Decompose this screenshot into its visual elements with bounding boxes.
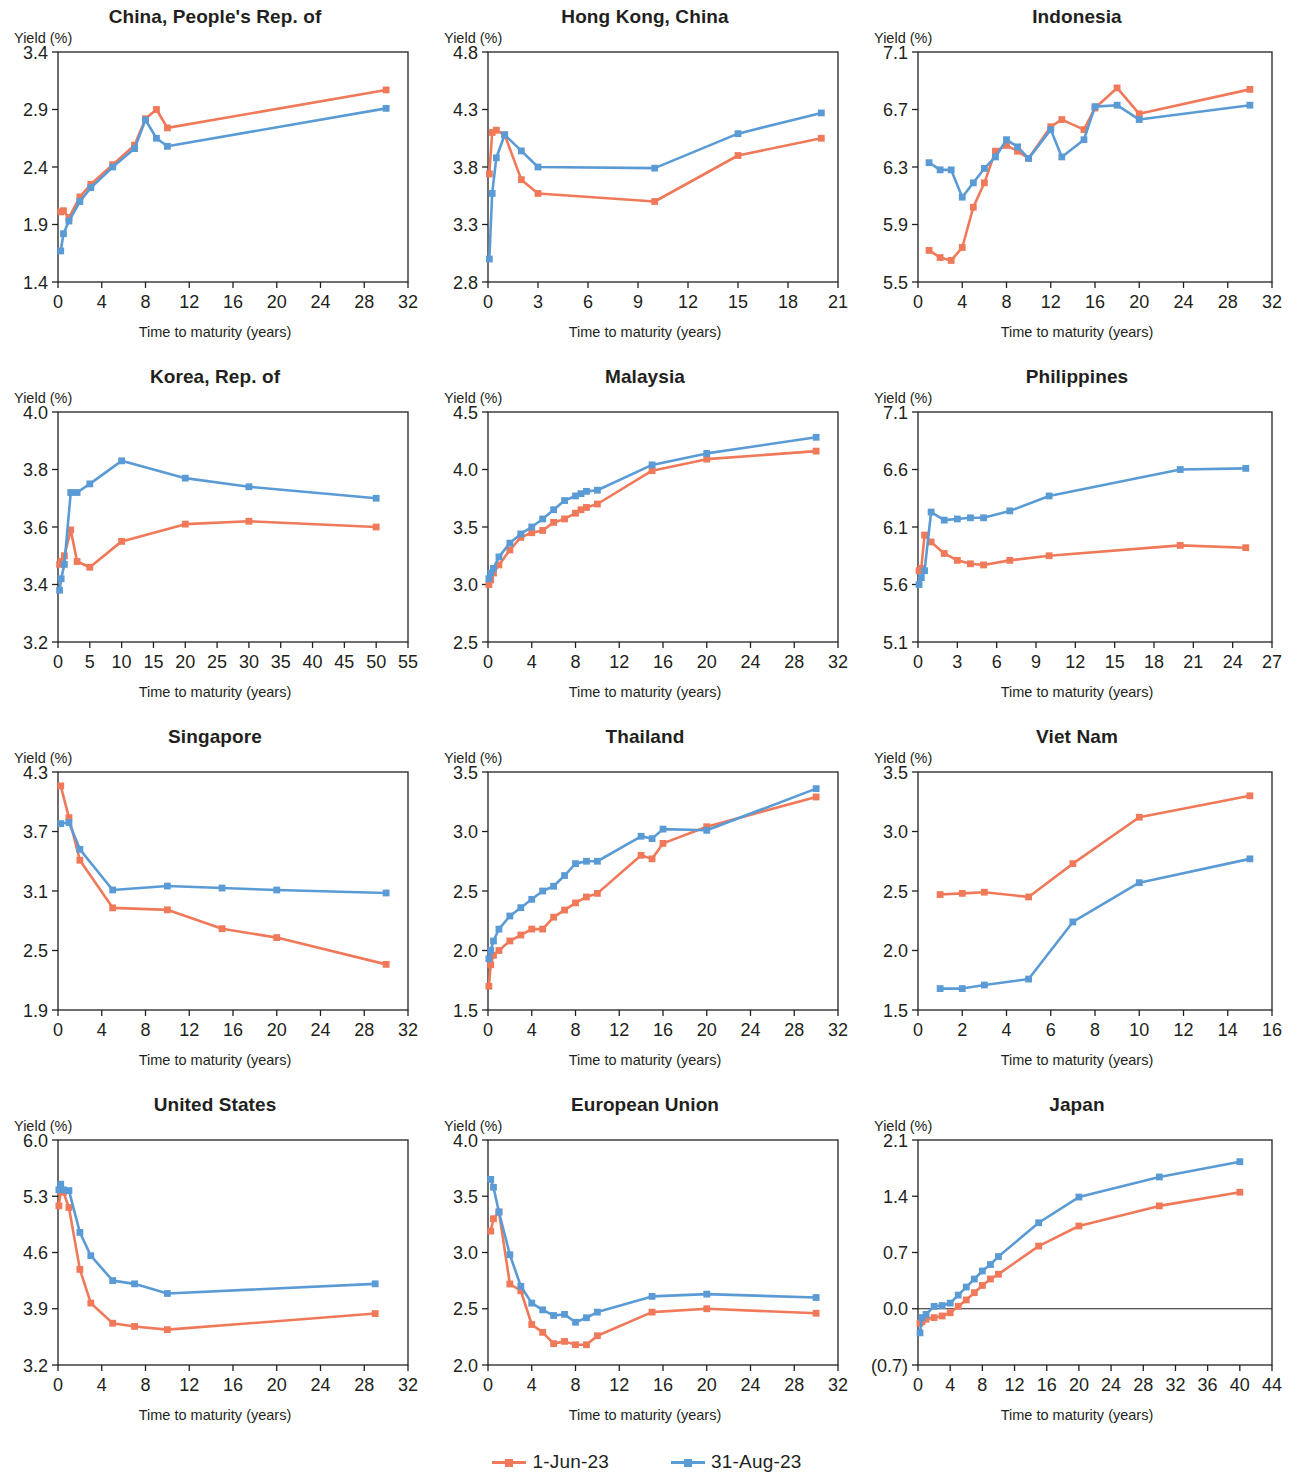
chart-grid: China, People's Rep. ofYield (%)1.41.92.… (0, 0, 1294, 1443)
svg-text:16: 16 (653, 652, 673, 672)
svg-text:2.0: 2.0 (453, 1356, 478, 1376)
svg-text:24: 24 (310, 1375, 330, 1395)
legend-1-jun-23: 1-Jun-23 (492, 1451, 609, 1473)
svg-text:32: 32 (828, 1375, 848, 1395)
svg-text:10: 10 (112, 652, 132, 672)
svg-text:27: 27 (1262, 652, 1282, 672)
svg-text:3.0: 3.0 (453, 822, 478, 842)
svg-text:36: 36 (1198, 1375, 1218, 1395)
chart-panel-philippines: PhilippinesYield (%)5.15.66.16.67.103691… (860, 360, 1294, 720)
svg-text:6.6: 6.6 (883, 460, 908, 480)
svg-text:8: 8 (977, 1375, 987, 1395)
svg-text:0: 0 (53, 1020, 63, 1040)
chart-panel-viet-nam: Viet NamYield (%)1.52.02.53.03.502468101… (860, 720, 1294, 1088)
svg-text:12: 12 (1005, 1375, 1025, 1395)
svg-text:3.4: 3.4 (23, 575, 48, 595)
legend-swatch-icon (492, 1456, 526, 1468)
svg-text:3.5: 3.5 (453, 1187, 478, 1207)
svg-text:12: 12 (609, 1375, 629, 1395)
svg-text:0: 0 (483, 292, 493, 312)
svg-text:4: 4 (527, 652, 537, 672)
svg-text:14: 14 (1218, 1020, 1238, 1040)
svg-text:6.3: 6.3 (883, 158, 908, 178)
svg-text:12: 12 (609, 652, 629, 672)
legend-label: 31-Aug-23 (711, 1451, 802, 1473)
svg-text:9: 9 (633, 292, 643, 312)
svg-text:4: 4 (1001, 1020, 1011, 1040)
svg-text:1.5: 1.5 (883, 1001, 908, 1021)
svg-text:28: 28 (1133, 1375, 1153, 1395)
legend-marker (684, 1459, 692, 1467)
svg-text:3.0: 3.0 (883, 822, 908, 842)
svg-text:3.2: 3.2 (23, 633, 48, 653)
svg-text:2.5: 2.5 (453, 633, 478, 653)
figure-legend: 1-Jun-2331-Aug-23 (0, 1443, 1294, 1481)
series-1-jun-23 (57, 87, 389, 221)
svg-text:2.0: 2.0 (883, 941, 908, 961)
svg-text:8: 8 (140, 292, 150, 312)
svg-text:16: 16 (223, 292, 243, 312)
svg-text:32: 32 (1262, 292, 1282, 312)
svg-text:4: 4 (97, 1020, 107, 1040)
series-31-aug-23 (937, 855, 1254, 992)
svg-text:4: 4 (97, 292, 107, 312)
series-31-aug-23 (57, 819, 389, 896)
svg-text:16: 16 (653, 1375, 673, 1395)
legend-31-aug-23: 31-Aug-23 (671, 1451, 802, 1473)
chart-panel-korea-rep-of: Korea, Rep. ofYield (%)3.23.43.63.84.005… (0, 360, 430, 720)
x-axis-label: Time to maturity (years) (430, 684, 860, 700)
svg-text:2.0: 2.0 (453, 941, 478, 961)
svg-text:4: 4 (97, 1375, 107, 1395)
svg-text:5.1: 5.1 (883, 633, 908, 653)
svg-text:28: 28 (354, 1020, 374, 1040)
svg-text:20: 20 (267, 1375, 287, 1395)
svg-text:40: 40 (1230, 1375, 1250, 1395)
svg-text:4: 4 (527, 1020, 537, 1040)
svg-text:8: 8 (140, 1020, 150, 1040)
svg-text:3.3: 3.3 (453, 215, 478, 235)
svg-text:28: 28 (784, 1020, 804, 1040)
svg-text:5.5: 5.5 (883, 273, 908, 293)
svg-text:6: 6 (1046, 1020, 1056, 1040)
svg-text:4.5: 4.5 (453, 403, 478, 423)
x-axis-label: Time to maturity (years) (430, 1407, 860, 1423)
series-1-jun-23 (937, 792, 1254, 900)
svg-text:4: 4 (945, 1375, 955, 1395)
series-31-aug-23 (485, 785, 819, 962)
svg-text:16: 16 (223, 1375, 243, 1395)
svg-text:8: 8 (1090, 1020, 1100, 1040)
svg-text:3.6: 3.6 (23, 518, 48, 538)
svg-text:8: 8 (1001, 292, 1011, 312)
svg-text:30: 30 (239, 652, 259, 672)
svg-text:4.0: 4.0 (453, 1131, 478, 1151)
svg-text:20: 20 (697, 1020, 717, 1040)
svg-text:0: 0 (483, 1020, 493, 1040)
plot-area: 1.52.02.53.03.50246810121416 (860, 720, 1294, 1088)
plot-area: 3.23.94.65.36.0048121620242832 (0, 1088, 430, 1443)
svg-text:25: 25 (207, 652, 227, 672)
svg-text:16: 16 (653, 1020, 673, 1040)
svg-text:45: 45 (334, 652, 354, 672)
svg-text:35: 35 (271, 652, 291, 672)
chart-panel-china-people-s-rep-of: China, People's Rep. ofYield (%)1.41.92.… (0, 0, 430, 360)
svg-text:20: 20 (1069, 1375, 1089, 1395)
svg-text:2.1: 2.1 (883, 1131, 908, 1151)
svg-text:32: 32 (828, 652, 848, 672)
svg-text:21: 21 (828, 292, 848, 312)
svg-text:3.0: 3.0 (453, 575, 478, 595)
svg-text:18: 18 (1144, 652, 1164, 672)
svg-text:4: 4 (957, 292, 967, 312)
svg-text:24: 24 (740, 1375, 760, 1395)
svg-text:9: 9 (1031, 652, 1041, 672)
x-axis-label: Time to maturity (years) (860, 1052, 1294, 1068)
svg-text:3.5: 3.5 (453, 763, 478, 783)
series-31-aug-23 (487, 1176, 819, 1326)
svg-text:0: 0 (483, 1375, 493, 1395)
svg-text:3.2: 3.2 (23, 1356, 48, 1376)
series-31-aug-23 (917, 1158, 1244, 1336)
svg-text:7.1: 7.1 (883, 43, 908, 63)
svg-text:2.5: 2.5 (453, 882, 478, 902)
series-1-jun-23 (56, 518, 379, 571)
svg-text:1.9: 1.9 (23, 1001, 48, 1021)
svg-text:4.3: 4.3 (23, 763, 48, 783)
